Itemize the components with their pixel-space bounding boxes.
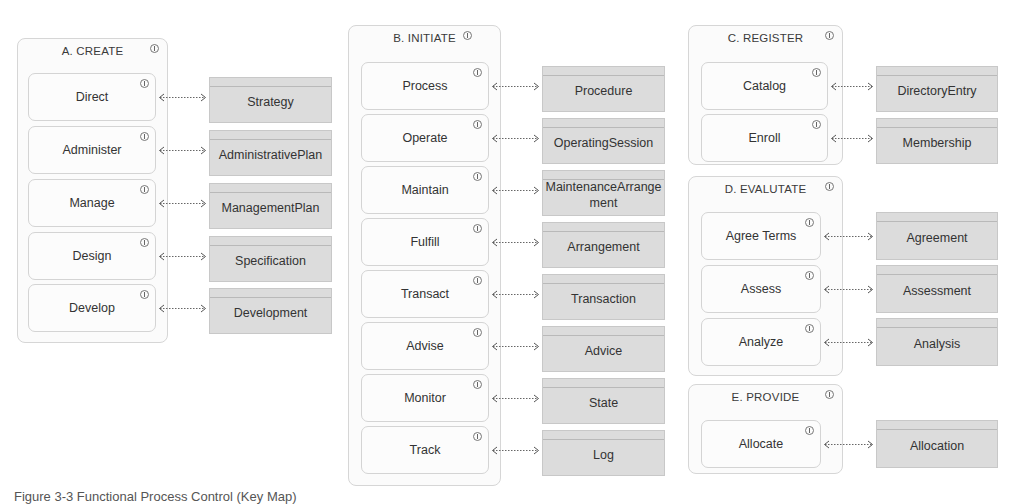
info-icon[interactable] — [805, 218, 814, 227]
info-icon[interactable] — [473, 432, 482, 441]
process-track[interactable]: Track — [361, 426, 489, 474]
process-label: Agree Terms — [702, 229, 820, 243]
entity-label: AdministrativePlan — [212, 147, 329, 163]
info-icon[interactable] — [812, 120, 821, 129]
bidirectional-arrow-icon — [491, 446, 540, 455]
process-label: Allocate — [702, 437, 820, 451]
entity-arrangement[interactable]: Arrangement — [542, 222, 665, 268]
entity-state[interactable]: State — [542, 378, 665, 424]
process-label: Monitor — [362, 391, 488, 405]
bidirectional-arrow-icon — [830, 82, 874, 91]
entity-label: Allocation — [879, 438, 995, 454]
process-administer[interactable]: Administer — [28, 126, 156, 174]
entity-label: Procedure — [545, 83, 662, 99]
entity-allocation[interactable]: Allocation — [876, 420, 998, 468]
group-title: C. REGISTER — [689, 32, 842, 44]
process-label: Track — [362, 443, 488, 457]
entity-managementplan[interactable]: ManagementPlan — [209, 183, 332, 229]
info-icon[interactable] — [473, 68, 482, 77]
bidirectional-arrow-icon — [491, 238, 540, 247]
bidirectional-arrow-icon — [823, 232, 874, 241]
entity-label: Log — [545, 447, 662, 463]
entity-analysis[interactable]: Analysis — [876, 318, 998, 366]
process-analyze[interactable]: Analyze — [701, 318, 821, 366]
info-icon[interactable] — [473, 172, 482, 181]
group-title: E. PROVIDE — [689, 391, 842, 403]
info-icon[interactable] — [140, 290, 149, 299]
process-monitor[interactable]: Monitor — [361, 374, 489, 422]
entity-label: Advice — [545, 343, 662, 359]
process-process[interactable]: Process — [361, 62, 489, 110]
process-design[interactable]: Design — [28, 232, 156, 280]
group-title: D. EVALUTATE — [689, 183, 842, 195]
entity-log[interactable]: Log — [542, 430, 665, 476]
entity-maintenancearrangement[interactable]: MaintenanceArrangement — [542, 170, 665, 216]
info-icon[interactable] — [473, 328, 482, 337]
info-icon[interactable] — [473, 120, 482, 129]
process-fulfill[interactable]: Fulfill — [361, 218, 489, 266]
info-icon[interactable] — [463, 31, 472, 40]
entity-label: Agreement — [879, 230, 995, 246]
entity-specification[interactable]: Specification — [209, 236, 332, 282]
entity-procedure[interactable]: Procedure — [542, 66, 665, 112]
process-advise[interactable]: Advise — [361, 322, 489, 370]
entity-label: Development — [212, 305, 329, 321]
process-label: Assess — [702, 282, 820, 296]
entity-directoryentry[interactable]: DirectoryEntry — [876, 66, 998, 112]
info-icon[interactable] — [473, 380, 482, 389]
info-icon[interactable] — [140, 79, 149, 88]
entity-label: State — [545, 395, 662, 411]
info-icon[interactable] — [140, 185, 149, 194]
info-icon[interactable] — [805, 324, 814, 333]
bidirectional-arrow-icon — [491, 290, 540, 299]
process-label: Fulfill — [362, 235, 488, 249]
info-icon[interactable] — [150, 44, 159, 53]
process-label: Direct — [29, 90, 155, 104]
bidirectional-arrow-icon — [158, 93, 207, 102]
process-transact[interactable]: Transact — [361, 270, 489, 318]
info-icon[interactable] — [805, 271, 814, 280]
entity-agreement[interactable]: Agreement — [876, 212, 998, 260]
info-icon[interactable] — [825, 390, 834, 399]
process-manage[interactable]: Manage — [28, 179, 156, 227]
entity-strategy[interactable]: Strategy — [209, 77, 332, 123]
entity-membership[interactable]: Membership — [876, 118, 998, 164]
info-icon[interactable] — [825, 182, 834, 191]
group-title: B. INITIATE — [349, 32, 500, 44]
figure-caption: Figure 3-3 Functional Process Control (K… — [14, 489, 297, 504]
info-icon[interactable] — [825, 31, 834, 40]
entity-development[interactable]: Development — [209, 288, 332, 334]
process-assess[interactable]: Assess — [701, 265, 821, 313]
entity-advice[interactable]: Advice — [542, 326, 665, 372]
entity-label: Arrangement — [545, 239, 662, 255]
process-label: Design — [29, 249, 155, 263]
entity-label: MaintenanceArrangement — [545, 179, 662, 211]
entity-transaction[interactable]: Transaction — [542, 274, 665, 320]
process-allocate[interactable]: Allocate — [701, 420, 821, 468]
entity-administrativeplan[interactable]: AdministrativePlan — [209, 130, 332, 176]
entity-operatingsession[interactable]: OperatingSession — [542, 118, 665, 164]
process-maintain[interactable]: Maintain — [361, 166, 489, 214]
entity-label: Transaction — [545, 291, 662, 307]
entity-assessment[interactable]: Assessment — [876, 265, 998, 313]
entity-label: Membership — [879, 135, 995, 151]
process-agree-terms[interactable]: Agree Terms — [701, 212, 821, 260]
process-develop[interactable]: Develop — [28, 284, 156, 332]
info-icon[interactable] — [805, 426, 814, 435]
info-icon[interactable] — [473, 276, 482, 285]
process-operate[interactable]: Operate — [361, 114, 489, 162]
info-icon[interactable] — [140, 132, 149, 141]
info-icon[interactable] — [812, 68, 821, 77]
process-label: Advise — [362, 339, 488, 353]
info-icon[interactable] — [473, 224, 482, 233]
info-icon[interactable] — [140, 238, 149, 247]
process-catalog[interactable]: Catalog — [701, 62, 828, 110]
process-label: Analyze — [702, 335, 820, 349]
process-direct[interactable]: Direct — [28, 73, 156, 121]
process-label: Manage — [29, 196, 155, 210]
process-label: Transact — [362, 287, 488, 301]
bidirectional-arrow-icon — [491, 394, 540, 403]
process-enroll[interactable]: Enroll — [701, 114, 828, 162]
bidirectional-arrow-icon — [830, 134, 874, 143]
process-label: Operate — [362, 131, 488, 145]
